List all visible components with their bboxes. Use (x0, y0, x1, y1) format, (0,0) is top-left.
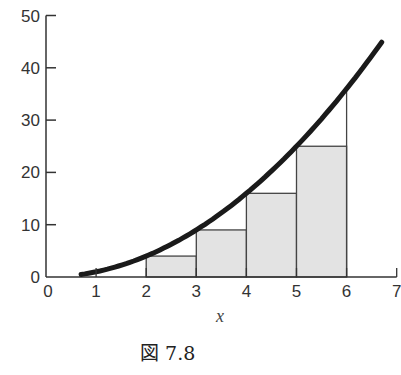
riemann-rectangle (146, 256, 196, 277)
riemann-rectangle (297, 146, 347, 277)
x-tick-label: 1 (91, 282, 100, 301)
riemann-sum-chart: 01020304050 01234567 x (0, 0, 401, 375)
y-axis-ticks: 01020304050 (21, 7, 56, 288)
x-axis-label: x (215, 306, 224, 326)
x-tick-label: 2 (141, 282, 150, 301)
figure-caption: 図 7.8 (140, 338, 195, 365)
x-tick-label: 6 (342, 282, 351, 301)
riemann-rectangle (196, 230, 246, 277)
y-tick-label: 50 (21, 7, 40, 26)
y-tick-label: 40 (21, 59, 40, 78)
y-tick-label: 10 (21, 216, 40, 235)
y-tick-label: 0 (31, 268, 40, 287)
x-tick-label: 3 (192, 282, 201, 301)
x-tick-label: 4 (242, 282, 251, 301)
x-tick-label: 5 (292, 282, 301, 301)
x-tick-label: 0 (43, 282, 52, 301)
y-tick-label: 20 (21, 163, 40, 182)
x-tick-label: 7 (392, 282, 401, 301)
y-tick-label: 30 (21, 111, 40, 130)
lower-sum-rectangles (146, 146, 346, 277)
riemann-rectangle (246, 193, 296, 277)
